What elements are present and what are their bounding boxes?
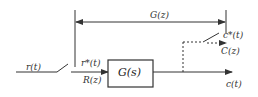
output-sampler-switch: [203, 33, 219, 42]
sampled-output-label: c*(t): [223, 31, 243, 40]
output-signal-label: c(t): [226, 80, 242, 89]
input-sampler-switch: [57, 64, 68, 72]
pulse-transfer-label: G(z): [150, 11, 169, 20]
input-signal-label: r(t): [26, 63, 41, 72]
sampled-data-block-diagram: G(z) r(t) r*(t) R(z) G(s) c*(t) C(z) c(t…: [0, 0, 258, 97]
sampled-input-label: r*(t): [81, 59, 100, 68]
output-z-label: C(z): [221, 47, 240, 56]
plant-block-label: G(s): [118, 67, 141, 78]
input-z-label: R(z): [83, 76, 102, 85]
diagram-canvas: [0, 0, 258, 97]
